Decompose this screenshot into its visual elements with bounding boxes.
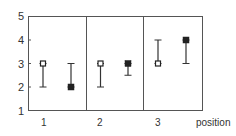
open-square-marker-icon: [98, 61, 103, 66]
data-point-filled-square-2: [125, 61, 132, 76]
data-point-open-square-3: [155, 40, 162, 66]
x-label-3: 3: [155, 117, 161, 128]
data-point-open-square-2: [97, 61, 104, 87]
x-label-2: 2: [97, 117, 103, 128]
data-point-open-square-1: [40, 61, 47, 87]
y-label-1: 1: [18, 105, 24, 117]
series-layer: [40, 37, 190, 90]
plot-frame: [29, 17, 203, 111]
data-point-filled-square-1: [68, 64, 75, 91]
y-label-3: 3: [18, 58, 24, 70]
error-bar-chart: 5 4 3 2 1 1 2 3 position: [0, 0, 236, 136]
y-label-4: 4: [18, 34, 24, 46]
data-point-filled-square-3: [183, 37, 190, 64]
y-label-2: 2: [18, 81, 24, 93]
y-axis-labels: 5 4 3 2 1: [18, 10, 24, 117]
x-axis-title: position: [196, 117, 230, 128]
y-label-5: 5: [18, 10, 24, 22]
filled-square-marker-icon: [183, 37, 189, 43]
filled-square-marker-icon: [125, 61, 131, 67]
filled-square-marker-icon: [68, 84, 74, 90]
x-label-1: 1: [41, 117, 47, 128]
open-square-marker-icon: [156, 61, 161, 66]
x-axis-labels: 1 2 3 position: [41, 117, 230, 128]
open-square-marker-icon: [41, 61, 46, 66]
